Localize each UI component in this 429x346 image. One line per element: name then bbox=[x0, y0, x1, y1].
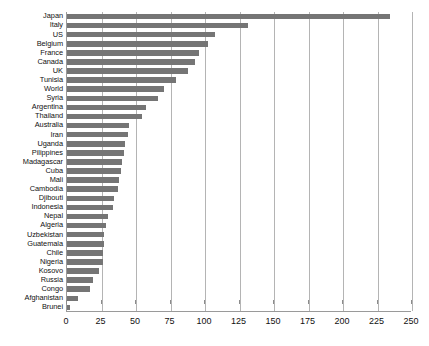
bar bbox=[67, 23, 248, 29]
bar bbox=[67, 32, 215, 38]
bar bbox=[67, 268, 99, 274]
bar-chart: JapanItalyUSBelgiumFranceCanadaUKTunisia… bbox=[0, 0, 429, 346]
bar-row bbox=[67, 185, 411, 194]
bar-row bbox=[67, 276, 411, 285]
bar-row bbox=[67, 76, 411, 85]
bar-row bbox=[67, 248, 411, 257]
bar bbox=[67, 186, 118, 192]
value-axis-label: 250 bbox=[403, 316, 418, 326]
category-label: Canada bbox=[0, 57, 63, 66]
bar bbox=[67, 50, 199, 56]
plot-area bbox=[66, 12, 411, 312]
category-label: Belgium bbox=[0, 39, 63, 48]
bar bbox=[67, 223, 106, 229]
value-axis-label: 175 bbox=[300, 316, 315, 326]
bar bbox=[67, 241, 104, 247]
tick-mark-0 bbox=[66, 300, 67, 304]
bar bbox=[67, 132, 128, 138]
bar-row bbox=[67, 285, 411, 294]
tick-mark-100 bbox=[204, 300, 205, 304]
category-label: Cambodia bbox=[0, 184, 63, 193]
bar bbox=[67, 77, 176, 83]
tick-mark-200 bbox=[342, 300, 343, 304]
bar-row bbox=[67, 157, 411, 166]
category-label: World bbox=[0, 84, 63, 93]
category-label: Pilippines bbox=[0, 148, 63, 157]
bar-row bbox=[67, 176, 411, 185]
category-label: Argentina bbox=[0, 102, 63, 111]
bar bbox=[67, 277, 93, 283]
value-axis-label: 75 bbox=[164, 316, 174, 326]
bar bbox=[67, 286, 90, 292]
tick-mark-250 bbox=[411, 300, 412, 304]
bar-row bbox=[67, 203, 411, 212]
category-label: US bbox=[0, 30, 63, 39]
bar bbox=[67, 250, 103, 256]
category-label: Chile bbox=[0, 248, 63, 257]
category-label: Uzbekistan bbox=[0, 230, 63, 239]
category-label: Madagascar bbox=[0, 157, 63, 166]
bar bbox=[67, 41, 208, 47]
category-label: Kosovo bbox=[0, 266, 63, 275]
category-axis-labels: JapanItalyUSBelgiumFranceCanadaUKTunisia… bbox=[0, 12, 63, 312]
category-label: Japan bbox=[0, 11, 63, 20]
bar-row bbox=[67, 121, 411, 130]
category-label: France bbox=[0, 48, 63, 57]
bar-row bbox=[67, 148, 411, 157]
category-label: Syria bbox=[0, 93, 63, 102]
category-label: Brunei bbox=[0, 302, 63, 311]
bar bbox=[67, 232, 104, 238]
value-axis-label: 100 bbox=[196, 316, 211, 326]
category-label: Mali bbox=[0, 175, 63, 184]
bar-row bbox=[67, 303, 411, 312]
value-axis-label: 200 bbox=[334, 316, 349, 326]
value-axis-label: 25 bbox=[95, 316, 105, 326]
bar bbox=[67, 141, 125, 147]
bar-row bbox=[67, 139, 411, 148]
bar-row bbox=[67, 194, 411, 203]
bar bbox=[67, 86, 164, 92]
bar-row bbox=[67, 239, 411, 248]
category-label: Thailand bbox=[0, 111, 63, 120]
bar-row bbox=[67, 85, 411, 94]
bar-row bbox=[67, 221, 411, 230]
category-label: Algeria bbox=[0, 220, 63, 229]
category-label: Australia bbox=[0, 120, 63, 129]
category-label: Congo bbox=[0, 284, 63, 293]
bar-row bbox=[67, 39, 411, 48]
gridline-250 bbox=[412, 12, 413, 311]
category-label: Nigeria bbox=[0, 257, 63, 266]
bar-row bbox=[67, 12, 411, 21]
bar bbox=[67, 296, 78, 302]
bar bbox=[67, 214, 108, 220]
bar-row bbox=[67, 57, 411, 66]
bar bbox=[67, 105, 146, 111]
tick-mark-225 bbox=[377, 300, 378, 304]
category-label: Italy bbox=[0, 20, 63, 29]
tick-mark-175 bbox=[308, 300, 309, 304]
value-axis-labels: 0255075100125150175200225250 bbox=[0, 316, 429, 332]
bar-row bbox=[67, 257, 411, 266]
value-axis-label: 225 bbox=[369, 316, 384, 326]
category-label: Guatemala bbox=[0, 239, 63, 248]
category-label: Afghanistan bbox=[0, 293, 63, 302]
bar bbox=[67, 96, 158, 102]
bar-row bbox=[67, 267, 411, 276]
value-axis-label: 0 bbox=[63, 316, 68, 326]
bar bbox=[67, 14, 390, 20]
category-label: Indonesia bbox=[0, 202, 63, 211]
tick-mark-25 bbox=[101, 300, 102, 304]
value-axis-label: 150 bbox=[265, 316, 280, 326]
bar-row bbox=[67, 48, 411, 57]
bar bbox=[67, 196, 114, 202]
bar-series bbox=[67, 12, 411, 311]
bar-row bbox=[67, 30, 411, 39]
bar bbox=[67, 205, 113, 211]
value-axis-label: 125 bbox=[231, 316, 246, 326]
tick-mark-75 bbox=[170, 300, 171, 304]
value-axis-label: 50 bbox=[130, 316, 140, 326]
bar bbox=[67, 59, 195, 65]
bar bbox=[67, 68, 188, 74]
bar-row bbox=[67, 103, 411, 112]
bar-row bbox=[67, 130, 411, 139]
